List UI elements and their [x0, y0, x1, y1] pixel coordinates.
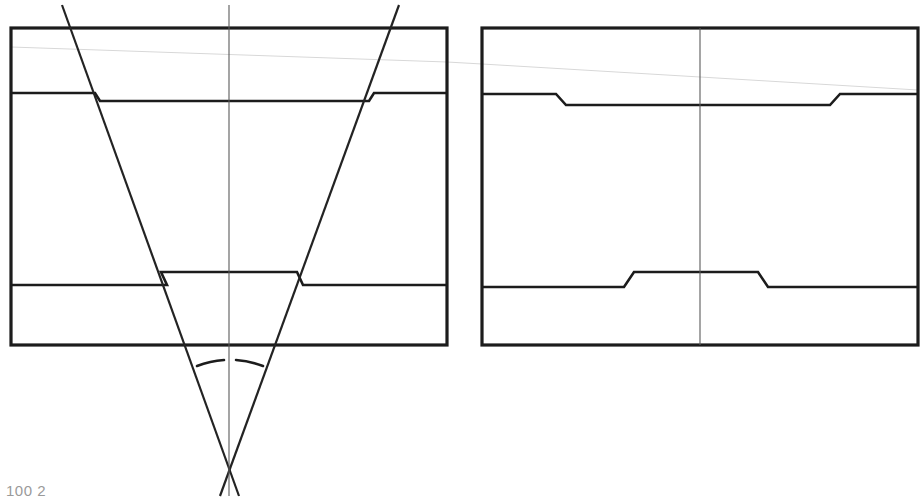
- construction-line-gap-bridge: [447, 62, 482, 64]
- left-view-angle-arc-left: [197, 360, 224, 366]
- technical-drawing-svg: [0, 0, 923, 501]
- drawing-canvas: 100 2: [0, 0, 923, 501]
- bottom-left-caption: 100 2: [6, 482, 46, 499]
- left-view-right-flank-line: [220, 5, 399, 496]
- left-section-view: [11, 5, 447, 496]
- right-section-view: [482, 28, 918, 345]
- construction-line-group: [11, 47, 918, 90]
- left-view-left-flank-line: [62, 5, 239, 496]
- left-view-angle-arc-right: [236, 360, 263, 366]
